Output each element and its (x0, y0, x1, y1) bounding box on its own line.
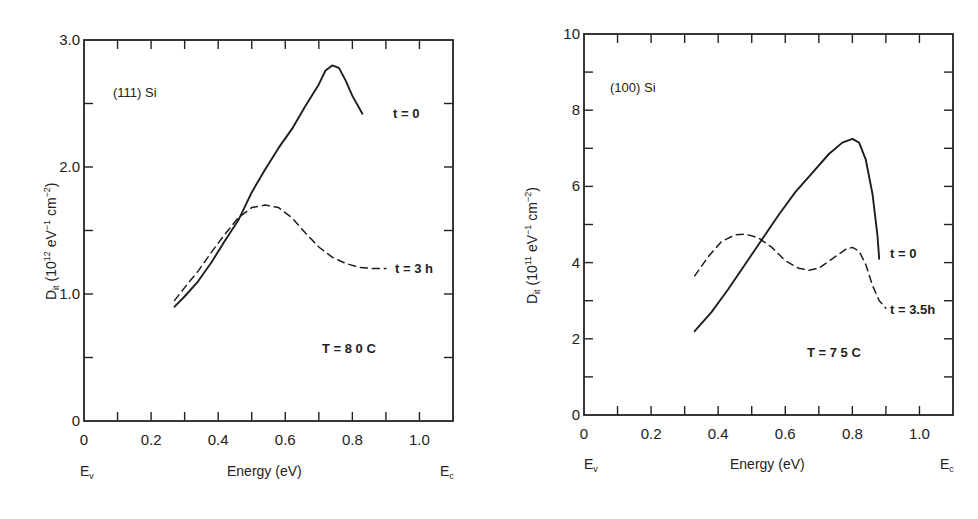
y-tick-label: 6 (572, 177, 580, 194)
x-tick-label: 0.6 (775, 425, 796, 442)
svg-text:Dit (1012 eV−1 cm−2): Dit (1012 eV−1 cm−2) (42, 182, 61, 300)
ec-label: Ec (940, 456, 954, 474)
chart-right-svg: 0246810 00.20.40.60.81.0 (100) Si t = 0 … (489, 0, 978, 519)
y-tick-label: 8 (572, 101, 580, 118)
x-tick-label: 0.6 (275, 431, 296, 448)
x-tick-label: 0 (80, 431, 88, 448)
x-tick-label: 1.0 (409, 431, 430, 448)
chart-111-si: 01.02.03.0 00.20.40.60.81.0 (111) Si t =… (0, 0, 489, 519)
sample-label: (100) Si (610, 80, 656, 95)
ev-label: Ev (584, 456, 598, 474)
temperature-label: T = 8 0 C (322, 341, 376, 356)
y-tick-label: 1.0 (59, 285, 80, 302)
data-series (175, 65, 386, 306)
x-tick-label: 1.0 (909, 425, 930, 442)
chart-100-si: 0246810 00.20.40.60.81.0 (100) Si t = 0 … (489, 0, 978, 519)
y-tick-label: 0 (72, 412, 80, 429)
ev-label: Ev (80, 463, 94, 481)
x-tick-label: 0 (580, 425, 588, 442)
y-axis-label: Dit (1011 eV−1 cm−2) (523, 187, 542, 304)
series-label-t0: t = 0 (890, 246, 916, 261)
y-tick-label: 10 (563, 25, 580, 42)
y-tick-label: 2.0 (59, 158, 80, 175)
x-tick-label: 0.2 (641, 425, 662, 442)
x-axis-label: Energy (eV) (227, 463, 302, 479)
x-tick-labels: 00.20.40.60.81.0 (80, 431, 430, 448)
series-label-t3h: t = 3 h (395, 261, 433, 276)
x-tick-label: 0.4 (708, 425, 729, 442)
x-tick-label: 0.8 (342, 431, 363, 448)
y-tick-label: 3.0 (59, 31, 80, 48)
y-tick-label: 0 (572, 406, 580, 423)
sample-label: (111) Si (113, 85, 157, 100)
svg-text:Dit (1011 eV−1 cm−2): Dit (1011 eV−1 cm−2) (523, 187, 542, 304)
y-axis-label: Dit (1012 eV−1 cm−2) (42, 182, 61, 300)
x-axis-label: Energy (eV) (730, 456, 805, 472)
y-tick-label: 4 (572, 254, 580, 271)
series-t-0 (175, 65, 363, 306)
series-label-t35h: t = 3.5h (890, 302, 935, 317)
x-tick-label: 0.4 (208, 431, 229, 448)
x-tick-label: 0.2 (141, 431, 162, 448)
x-tick-label: 0.8 (842, 425, 863, 442)
data-series (695, 139, 886, 331)
x-tick-labels: 00.20.40.60.81.0 (580, 425, 930, 442)
y-tick-label: 2 (572, 330, 580, 347)
series-t-0 (695, 139, 880, 331)
series-t-3-h (175, 205, 386, 300)
temperature-label: T = 7 5 C (807, 345, 861, 360)
y-tick-labels: 0246810 (563, 25, 580, 423)
ec-label: Ec (440, 463, 454, 481)
chart-left-svg: 01.02.03.0 00.20.40.60.81.0 (111) Si t =… (0, 0, 489, 519)
y-tick-labels: 01.02.03.0 (59, 31, 80, 429)
series-label-t0: t = 0 (393, 106, 419, 121)
